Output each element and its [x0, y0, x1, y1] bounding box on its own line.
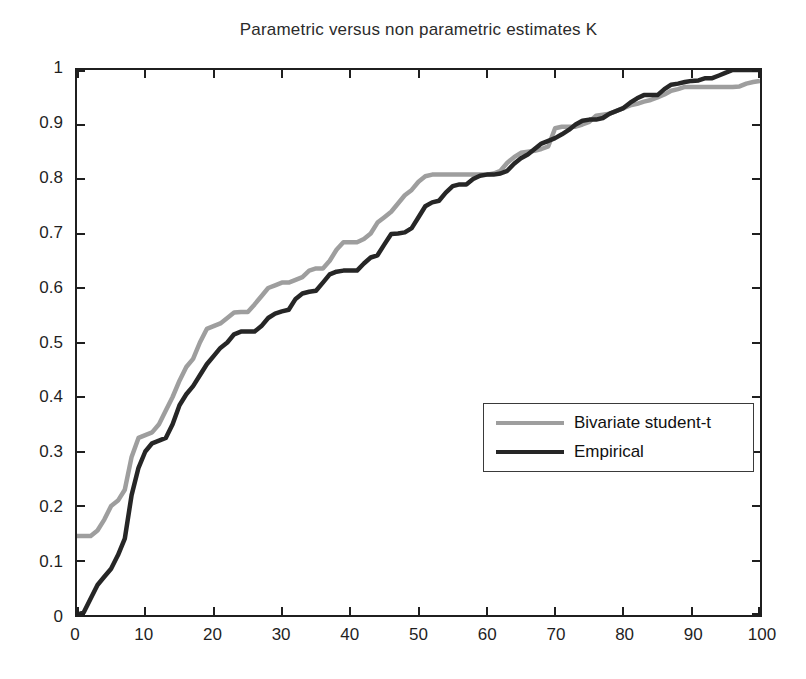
axis-tick-mark [77, 178, 85, 180]
axis-tick-mark [691, 70, 693, 78]
axis-tick-mark [554, 70, 556, 78]
axis-tick-mark [752, 560, 760, 562]
axis-tick-mark [77, 70, 85, 72]
x-tick-label-40: 40 [340, 625, 359, 645]
x-tick-label-90: 90 [684, 625, 703, 645]
x-tick-label-80: 80 [615, 625, 634, 645]
y-tick-label-1: 1 [8, 58, 63, 78]
axis-tick-mark [77, 560, 85, 562]
figure-window: Parametric versus non parametric estimat… [0, 0, 806, 679]
y-tick-label-0.5: 0.5 [8, 333, 63, 353]
axis-tick-mark [77, 451, 85, 453]
axis-tick-mark [486, 70, 488, 78]
plot-area [75, 68, 762, 617]
axis-tick-mark [77, 124, 85, 126]
axis-tick-mark [77, 505, 85, 507]
y-tick-label-0.3: 0.3 [8, 442, 63, 462]
chart-title: Parametric versus non parametric estimat… [75, 20, 762, 40]
axis-tick-mark [77, 287, 85, 289]
x-tick-label-10: 10 [134, 625, 153, 645]
axis-tick-mark [752, 287, 760, 289]
axis-tick-mark [77, 342, 85, 344]
y-tick-label-0.8: 0.8 [8, 168, 63, 188]
axis-tick-mark [213, 70, 215, 78]
axis-tick-mark [752, 396, 760, 398]
axis-tick-mark [349, 607, 351, 615]
x-tick-label-30: 30 [272, 625, 291, 645]
x-tick-label-100: 100 [748, 625, 776, 645]
axis-tick-mark [213, 607, 215, 615]
axis-tick-mark [418, 607, 420, 615]
axis-tick-mark [77, 613, 85, 615]
y-tick-label-0.9: 0.9 [8, 113, 63, 133]
x-tick-label-0: 0 [70, 625, 79, 645]
empirical-line-swatch [496, 450, 564, 454]
axis-tick-mark [144, 607, 146, 615]
series-line-empirical [77, 70, 760, 615]
legend-item-bivariate-student-t: Bivariate student-t [496, 413, 753, 433]
axis-tick-mark [144, 70, 146, 78]
y-tick-label-0.6: 0.6 [8, 278, 63, 298]
axis-tick-mark [752, 124, 760, 126]
x-tick-label-50: 50 [409, 625, 428, 645]
axis-tick-mark [622, 607, 624, 615]
bivariate-student-t-line-swatch [496, 421, 564, 425]
x-tick-label-70: 70 [546, 625, 565, 645]
axis-tick-mark [77, 233, 85, 235]
axis-tick-mark [77, 396, 85, 398]
legend-label-bivariate-student-t: Bivariate student-t [574, 413, 711, 433]
axis-tick-mark [752, 505, 760, 507]
y-tick-label-0: 0 [8, 607, 63, 627]
axis-tick-mark [486, 607, 488, 615]
axis-tick-mark [752, 70, 760, 72]
axis-tick-mark [752, 613, 760, 615]
axis-tick-mark [281, 607, 283, 615]
legend-box: Bivariate student-t Empirical [483, 403, 754, 472]
axis-tick-mark [752, 233, 760, 235]
axis-tick-mark [349, 70, 351, 78]
y-tick-label-0.1: 0.1 [8, 552, 63, 572]
legend-item-empirical: Empirical [496, 442, 753, 462]
axis-tick-mark [691, 607, 693, 615]
axis-tick-mark [554, 607, 556, 615]
line-series-canvas [77, 70, 760, 615]
axis-tick-mark [752, 342, 760, 344]
axis-tick-mark [281, 70, 283, 78]
axis-tick-mark [752, 178, 760, 180]
y-tick-label-0.7: 0.7 [8, 223, 63, 243]
y-tick-label-0.4: 0.4 [8, 387, 63, 407]
x-tick-label-60: 60 [478, 625, 497, 645]
axis-tick-mark [622, 70, 624, 78]
x-tick-label-20: 20 [203, 625, 222, 645]
legend-label-empirical: Empirical [574, 442, 644, 462]
axis-tick-mark [418, 70, 420, 78]
y-tick-label-0.2: 0.2 [8, 497, 63, 517]
